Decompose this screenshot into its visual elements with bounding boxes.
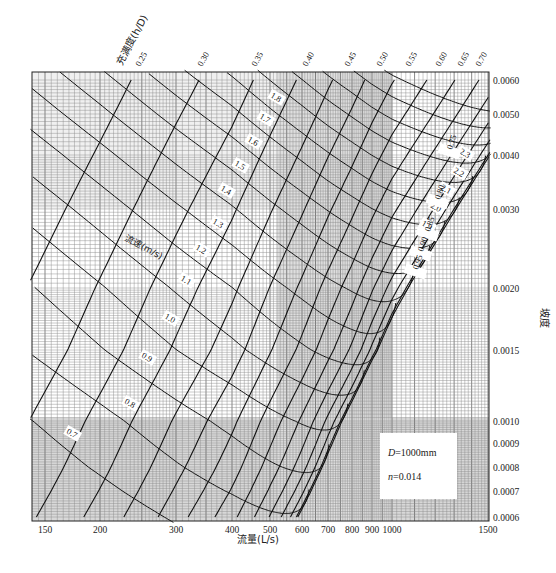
y-tick-label: 0.0007 bbox=[493, 487, 519, 497]
y-axis-ticks: 0.00600.00500.00400.00300.00200.00150.00… bbox=[493, 76, 519, 523]
y-tick-label: 0.0040 bbox=[493, 151, 519, 161]
fullness-label: 0.80 bbox=[432, 183, 446, 200]
roughness-label: n=0.014 bbox=[388, 471, 421, 482]
x-tick-label: 300 bbox=[169, 525, 184, 535]
y-tick-label: 0.0060 bbox=[493, 76, 519, 86]
fullness-label: 0.65 bbox=[455, 50, 471, 68]
y-tick-label: 0.0006 bbox=[493, 513, 519, 523]
y-tick-label: 0.0050 bbox=[493, 110, 519, 120]
y-tick-label: 0.0009 bbox=[493, 439, 519, 449]
y-tick-label: 0.0030 bbox=[493, 205, 519, 215]
fullness-label: 0.50 bbox=[374, 50, 390, 68]
fullness-label: 0.60 bbox=[433, 50, 449, 68]
y-tick-label: 0.0015 bbox=[493, 346, 519, 356]
x-tick-label: 700 bbox=[321, 525, 336, 535]
y-tick-label: 0.0008 bbox=[493, 463, 519, 473]
x-axis-title: 流量(L/s) bbox=[237, 533, 279, 545]
fullness-label: 0.30 bbox=[195, 50, 211, 68]
x-tick-label: 600 bbox=[295, 525, 310, 535]
fullness-label: 0.40 bbox=[300, 50, 316, 68]
y-tick-label: 0.0010 bbox=[493, 417, 519, 427]
y-tick-label: 0.0020 bbox=[493, 284, 519, 294]
nomograph-chart: 0.70.80.91.01.11.21.31.41.51.61.71.81.92… bbox=[0, 0, 556, 573]
fullness-label: 0.35 bbox=[249, 50, 265, 68]
fullness-label: 0.55 bbox=[403, 50, 419, 68]
parameter-box: D=1000mm n=0.014 bbox=[380, 433, 457, 499]
fullness-label: 0.45 bbox=[342, 50, 358, 68]
x-tick-label: 1500 bbox=[479, 525, 498, 535]
velocity-title: 流速(m/s) bbox=[123, 232, 165, 261]
y-axis-title: 坡度 bbox=[539, 308, 551, 328]
x-tick-label: 1000 bbox=[383, 525, 402, 535]
x-tick-label: 150 bbox=[38, 525, 53, 535]
x-tick-label: 800 bbox=[345, 525, 360, 535]
fullness-label: 0.25 bbox=[133, 50, 149, 68]
diameter-label: D=1000mm bbox=[388, 447, 436, 458]
x-tick-label: 200 bbox=[93, 525, 108, 535]
fullness-label: 0.90 bbox=[415, 235, 429, 252]
fullness-label: 0.70 bbox=[473, 50, 489, 68]
velocity-curve bbox=[384, 70, 489, 111]
fullness-label: 0.95 bbox=[410, 253, 424, 270]
x-tick-label: 900 bbox=[365, 525, 380, 535]
